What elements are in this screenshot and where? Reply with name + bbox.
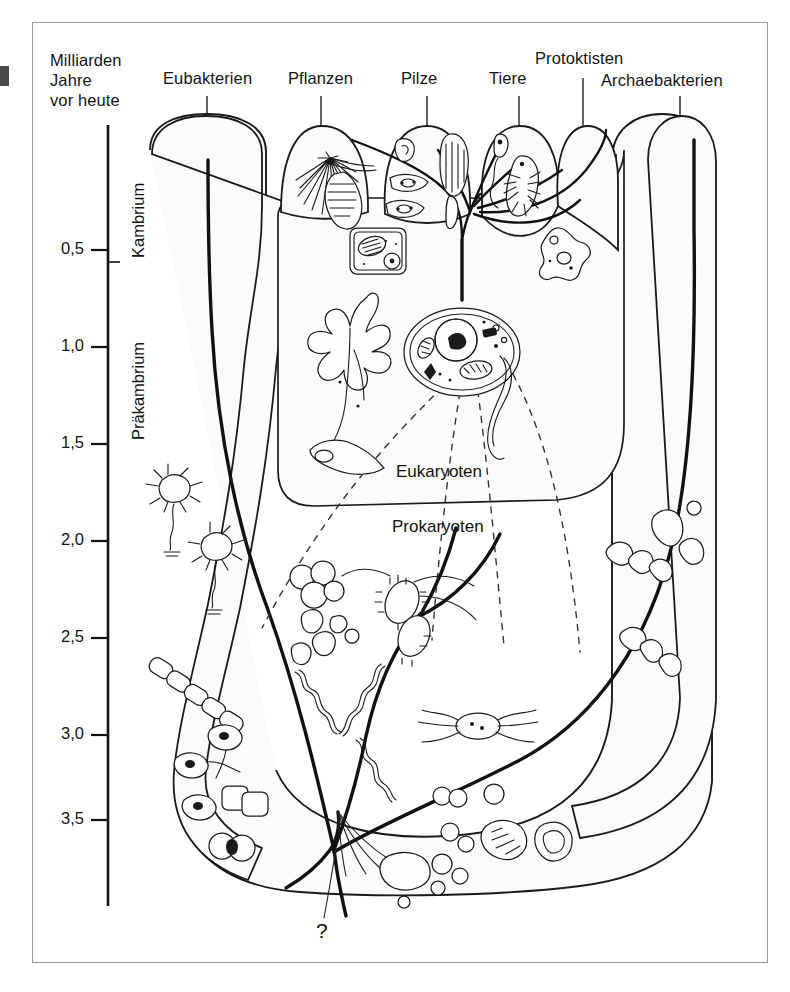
time-axis [91, 125, 120, 906]
axis-title-line-2: Jahre [50, 70, 92, 90]
axis-title-line-1: Milliarden [50, 50, 122, 70]
axis-tick-label-6: 3,5 [38, 809, 84, 828]
era-label-kambrium: Kambrium [129, 183, 148, 258]
root-question-mark: ? [316, 919, 328, 942]
axis-tick-label-3: 2,0 [38, 530, 84, 549]
top-label-eubakterien: Eubakterien [163, 68, 252, 88]
figure-page: .env{fill:#fbfbfb;stroke:#1a1a1a;stroke-… [0, 0, 790, 992]
axis-tick-label-0: 0,5 [38, 239, 84, 258]
top-label-protoktisten: Protoktisten [535, 48, 623, 68]
sketch-plant-cell [350, 228, 406, 274]
top-label-pilze: Pilze [401, 68, 437, 88]
phylogenetic-tree-drawing: .env{fill:#fbfbfb;stroke:#1a1a1a;stroke-… [0, 0, 790, 992]
top-label-archaebakterien: Archaebakterien [601, 70, 723, 90]
sketch-ciliated-cell [418, 710, 538, 742]
axis-tick-label-5: 3,0 [38, 724, 84, 743]
top-label-tiere: Tiere [489, 68, 526, 88]
axis-tick-label-4: 2,5 [38, 627, 84, 646]
era-label-praekambrium: Präkambrium [129, 342, 148, 440]
sketch-budding-bacteria [291, 610, 359, 665]
sketch-cocci-cluster [290, 561, 344, 608]
interior-label-eukaryoten: Eukaryoten [396, 462, 482, 482]
axis-title-line-3: vor heute [50, 90, 120, 110]
axis-tick-label-1: 1,0 [38, 336, 84, 355]
top-label-pflanzen: Pflanzen [288, 68, 353, 88]
sketch-flagellated-bacterium [342, 569, 476, 666]
interior-label-prokaryoten: Prokaryoten [392, 517, 484, 537]
axis-tick-label-2: 1,5 [38, 433, 84, 452]
sketch-spirochetes [295, 664, 385, 736]
